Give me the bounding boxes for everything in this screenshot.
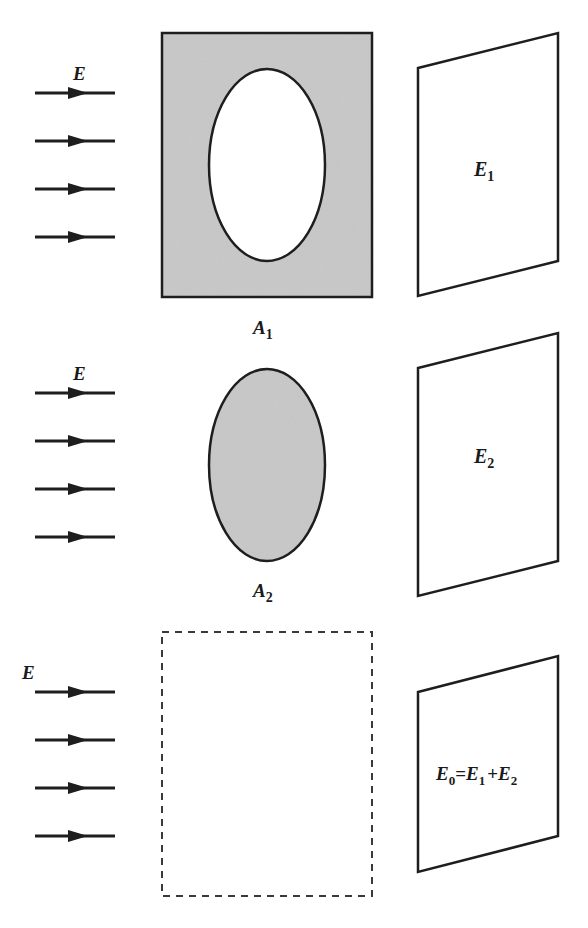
row-2-incident-field: E <box>35 363 115 543</box>
field-arrow-icon <box>35 734 115 746</box>
field-arrow-icon <box>35 483 115 495</box>
field-label-e: E <box>72 63 86 84</box>
field-label-e: E <box>21 662 35 683</box>
field-arrow-icon <box>35 183 115 195</box>
field-arrow-icon <box>35 231 115 243</box>
row-1-incident-field: E <box>35 63 115 243</box>
observation-screen-e0: E0=E1+E2 <box>418 656 558 872</box>
aperture-label-a1: A1 <box>252 317 273 342</box>
field-arrow-icon <box>35 135 115 147</box>
aperture-a1-screen-with-hole <box>162 33 372 297</box>
observation-screen-e1: E1 <box>418 33 558 296</box>
field-arrow-icon <box>35 435 115 447</box>
aperture-a2-elliptical-disk <box>209 369 325 561</box>
field-arrow-icon <box>35 782 115 794</box>
aperture-none-dashed-outline <box>162 632 372 896</box>
field-label-e: E <box>72 363 86 384</box>
row-3-incident-field: E <box>21 662 115 842</box>
field-arrow-icon <box>35 830 115 842</box>
field-arrow-icon <box>35 531 115 543</box>
babinet-principle-diagram: E A1 E1 E A2 E2 E <box>0 0 588 928</box>
observation-screen-e2: E2 <box>418 333 558 596</box>
field-arrow-icon <box>35 387 115 399</box>
aperture-label-a2: A2 <box>252 580 273 605</box>
field-arrow-icon <box>35 87 115 99</box>
field-arrow-icon <box>35 686 115 698</box>
